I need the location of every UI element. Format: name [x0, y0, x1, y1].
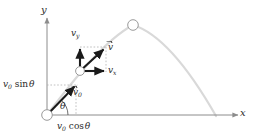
x-axis-label: x	[240, 108, 246, 118]
projectile-motion-figure: y x v0 sin θ v0 cos θ θ v0 v vy vx	[0, 0, 254, 136]
v0-sin-theta-fn: sin	[15, 79, 28, 89]
v0-vector-label-v: v	[73, 88, 78, 97]
vx-label-sub: x	[113, 69, 116, 76]
v-resultant-label-v: v	[108, 43, 113, 52]
v0-sin-theta-angle: θ	[29, 79, 34, 89]
apex-point-marker	[128, 20, 139, 31]
v-resultant-label: v	[108, 43, 113, 52]
v0-vector-label: v0	[73, 88, 82, 98]
v0-cos-theta-fn: cos	[69, 121, 84, 131]
v0-cos-theta-label: v0 cos θ	[57, 122, 90, 132]
vy-label: vy	[71, 29, 80, 39]
launch-point-marker	[42, 110, 53, 121]
vector-group	[47, 49, 104, 115]
figure-canvas	[0, 0, 254, 136]
y-axis-label: y	[41, 5, 47, 15]
v0-cos-theta-angle: θ	[85, 121, 90, 131]
vx-label: vx	[108, 66, 117, 76]
vy-label-sub: y	[76, 32, 79, 39]
v0-vector-label-sub: 0	[78, 91, 82, 98]
v0-sin-theta-label: v0 sin θ	[3, 80, 34, 90]
trajectory-curve	[47, 25, 216, 116]
mid-trajectory-point-marker	[76, 67, 85, 76]
theta-label: θ	[60, 102, 65, 111]
